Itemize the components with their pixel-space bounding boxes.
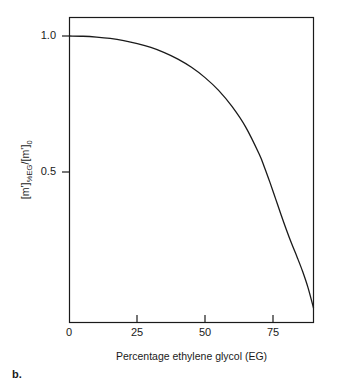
x-tick-label-75: 75	[258, 327, 288, 338]
x-axis-title: Percentage ethylene glycol (EG)	[69, 350, 314, 362]
panel-letter: b.	[12, 368, 22, 380]
plot-area	[0, 0, 343, 388]
y-axis-title-mid: /[m']	[19, 145, 31, 165]
plot-frame	[70, 18, 314, 323]
x-tick-label-0: 0	[54, 327, 84, 338]
data-series-line	[70, 36, 314, 308]
y-axis-title-lead: [m']	[19, 183, 31, 200]
y-axis-title-sub-zero: 0	[25, 140, 34, 144]
y-tick-label-0.5: 0.5	[22, 166, 56, 177]
figure-panel-b: [m']%EG/[m']0 1.0 0.5 0 25 50 75 Percent…	[0, 0, 343, 388]
x-tick-marks	[137, 315, 273, 323]
y-tick-marks	[62, 36, 70, 172]
y-tick-label-1.0: 1.0	[22, 30, 56, 41]
x-tick-label-50: 50	[190, 327, 220, 338]
x-tick-label-25: 25	[122, 327, 152, 338]
